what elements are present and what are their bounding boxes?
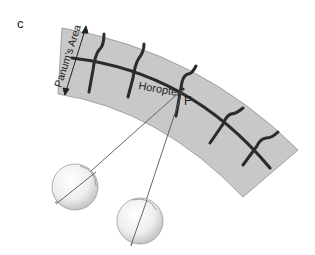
left-eye [52,164,98,210]
horopter-diagram: Panum's Area Horopter F [0,0,315,255]
right-eye [117,198,163,245]
fixation-point-label: F [184,94,191,108]
